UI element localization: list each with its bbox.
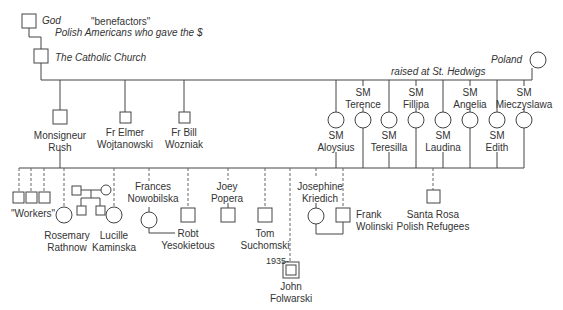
god-node	[22, 14, 36, 28]
sister-fillipa: SMFillipa	[403, 87, 429, 111]
clergy-monsigneur-rush: MonsigneurRush	[34, 130, 86, 154]
sister-mieczyslawa: SMMieczyslawa	[496, 87, 553, 111]
poland-label: Poland	[491, 54, 522, 66]
clergy-fr-elmer: Fr ElmerWojtanowski	[97, 127, 153, 151]
poland-node	[530, 52, 546, 68]
church-node	[34, 49, 48, 63]
frances-nowobilska: FrancesNowobilska	[127, 181, 178, 205]
santa-rosa-refugees: Santa RosaPolish Refugees	[397, 209, 470, 233]
sister-aloysius: SMAloysius	[317, 130, 354, 154]
tom-suchomski: TomSuchomski	[241, 228, 290, 252]
sister-laudina: SMLaudina	[425, 130, 461, 154]
sister-angelia: SMAngelia	[453, 87, 486, 111]
robt-yesokietous: RobtYesokietous	[161, 228, 215, 252]
john-folwarski: JohnFolwarski	[270, 281, 312, 305]
sister-terence: SMTerence	[345, 87, 381, 111]
clergy-fr-bill: Fr BillWozniak	[165, 127, 203, 151]
rosemary-rathnow: RosemaryRathnow	[44, 230, 90, 254]
church-label: The Catholic Church	[55, 52, 146, 64]
frank-wolinski: FrankWolinski	[356, 209, 393, 233]
workers-label: "Workers"	[11, 208, 55, 220]
sister-edith: SMEdith	[486, 130, 509, 154]
raised-label: raised at St. Hedwigs	[391, 66, 486, 78]
joey-popera: JoeyPopera	[211, 181, 243, 205]
benefactors-label: Polish Americans who gave the $	[55, 27, 203, 39]
josephine-kriedich: JosephineKriedich	[297, 181, 343, 205]
god-label: God	[42, 15, 61, 27]
sister-teresilla: SMTeresilla	[371, 130, 408, 154]
lucille-kaminska: LucilleKaminska	[92, 230, 136, 254]
john-birth-year: 1935-	[266, 255, 289, 267]
